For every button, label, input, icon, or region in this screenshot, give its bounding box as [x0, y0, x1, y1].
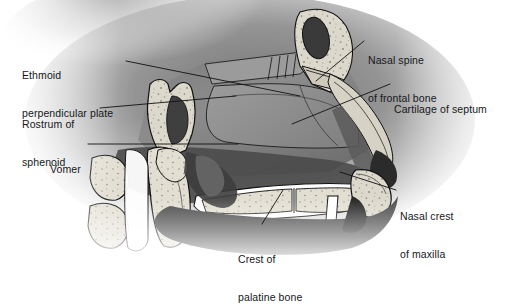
label-line-1: Cartilage of septum [394, 103, 487, 116]
label-line-2: palatine bone [238, 291, 302, 304]
label-line-1: Crest of [238, 253, 302, 266]
label-line-2: of maxilla [400, 248, 454, 261]
label-line-1: Nasal crest [400, 210, 454, 223]
label-line-1: Vomer [50, 163, 81, 176]
label-crest-of-palatine-bone: Crest of palatine bone [238, 228, 302, 307]
label-line-1: Ethmoid [22, 69, 113, 82]
label-line-1: Nasal spine [368, 54, 437, 67]
label-cartilage-of-septum: Cartilage of septum [394, 78, 487, 128]
label-vomer: Vomer [50, 138, 81, 188]
label-nasal-crest-of-maxilla: Nasal crest of maxilla [400, 185, 454, 273]
label-line-1: Rostrum of [22, 118, 74, 131]
